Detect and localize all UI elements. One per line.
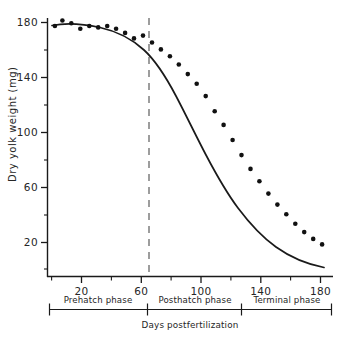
y-axis-tick-labels: 180 140 100 60 20 (17, 16, 38, 248)
phase-label-prehatch: Prehatch phase (64, 295, 133, 305)
data-point (87, 24, 92, 29)
y-axis-title: Dry yolk weight (mg) (7, 67, 18, 182)
data-point (168, 54, 173, 59)
data-points (53, 18, 325, 247)
data-point (194, 82, 199, 87)
figure-container: Dry yolk weight (mg) 180 140 100 60 20 (0, 0, 339, 339)
phase-bracket-terminal: Terminal phase (242, 295, 332, 316)
data-point (266, 191, 271, 196)
data-point (177, 62, 182, 67)
data-point (60, 18, 65, 23)
data-point (275, 202, 280, 207)
data-point (257, 179, 262, 184)
y-tick-label-180: 180 (17, 16, 38, 28)
phase-label-terminal: Terminal phase (252, 295, 320, 305)
data-point (96, 25, 101, 30)
data-point (114, 27, 119, 32)
axes (47, 18, 333, 277)
data-point (311, 237, 316, 242)
data-point (293, 222, 298, 227)
data-point (186, 72, 191, 77)
phase-bracket-posthatch: Posthatch phase (148, 295, 242, 316)
data-point (53, 24, 58, 29)
data-point (212, 109, 217, 114)
data-point (284, 212, 289, 217)
y-axis-ticks (41, 23, 48, 270)
data-point (150, 40, 155, 45)
x-axis-ticks (52, 277, 321, 284)
y-tick-label-60: 60 (24, 181, 38, 193)
data-point (248, 167, 253, 172)
data-point (239, 153, 244, 158)
data-point (203, 94, 208, 99)
y-tick-label-100: 100 (17, 126, 38, 138)
data-point (320, 242, 325, 247)
x-axis-caption: Days postfertilization (142, 320, 239, 330)
data-point (230, 138, 235, 143)
data-point (302, 230, 307, 235)
phase-label-posthatch: Posthatch phase (158, 295, 231, 305)
yolk-weight-chart: Dry yolk weight (mg) 180 140 100 60 20 (0, 0, 339, 339)
data-point (159, 47, 164, 52)
y-tick-label-140: 140 (17, 71, 38, 83)
phase-bracket-prehatch: Prehatch phase (49, 295, 148, 316)
data-point (132, 36, 137, 41)
data-point (221, 123, 226, 128)
data-point (78, 27, 83, 32)
data-point (141, 33, 146, 38)
data-point (123, 31, 128, 36)
y-tick-label-20: 20 (24, 236, 38, 248)
x-tick-label-60: 60 (134, 285, 148, 297)
data-point (105, 24, 110, 29)
data-point (69, 21, 74, 26)
fitted-curve (52, 24, 324, 268)
